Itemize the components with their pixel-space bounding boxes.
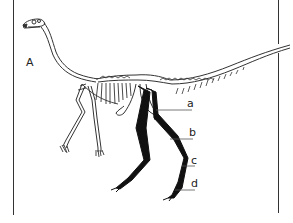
panel-label: A (26, 56, 34, 69)
label-a: a (187, 98, 194, 109)
label-c: c (191, 155, 197, 166)
skeleton-figure: A a b c d (0, 0, 293, 223)
hindlimbs (111, 86, 188, 201)
forelimbs (60, 84, 104, 157)
skull (23, 19, 45, 28)
neck (41, 23, 98, 82)
back-and-tail (96, 45, 290, 94)
ribcage (78, 83, 131, 104)
label-d: d (191, 178, 198, 189)
skeleton-drawing (0, 0, 293, 223)
label-b: b (189, 127, 196, 138)
